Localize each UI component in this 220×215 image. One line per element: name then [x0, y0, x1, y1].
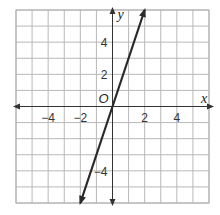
- y-tick-label: −4: [94, 165, 108, 179]
- y-tick-label: 2: [101, 68, 108, 82]
- y-tick-label: 4: [101, 36, 108, 50]
- x-tick-label: 4: [173, 111, 180, 125]
- y-axis-label: y: [116, 7, 125, 22]
- x-tick-label: 2: [141, 111, 148, 125]
- x-tick-label: −4: [41, 111, 55, 125]
- coordinate-plane: −4−22442−4 x y O: [0, 0, 220, 215]
- origin-label: O: [99, 91, 109, 106]
- tick-labels: −4−22442−4: [41, 36, 180, 179]
- x-tick-label: −2: [73, 111, 87, 125]
- x-axis-label: x: [200, 91, 208, 106]
